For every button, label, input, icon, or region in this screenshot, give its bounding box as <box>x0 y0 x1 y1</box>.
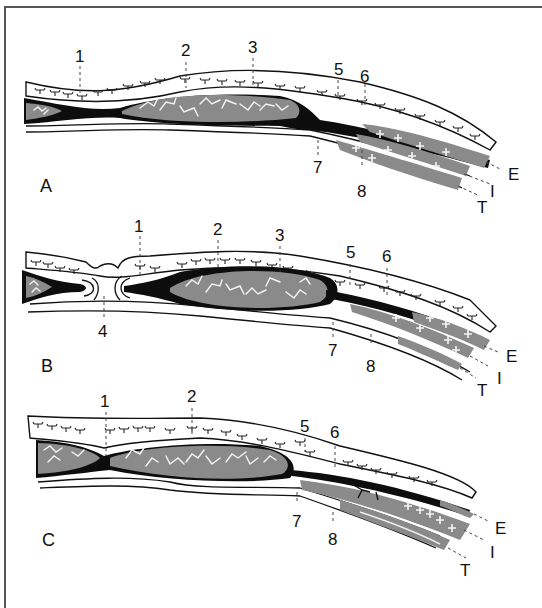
panel-c-marker-6: 6 <box>330 423 339 442</box>
panel-b-marker-3: 3 <box>275 226 284 245</box>
panel-a-layer-E: E <box>508 165 519 184</box>
panel-a-marker-2: 2 <box>181 41 190 60</box>
panel-b-label: B <box>41 356 53 376</box>
diagram-canvas: 1 2 3 5 6 7 8 E I T A <box>0 0 542 608</box>
panel-c-layer-E: E <box>495 519 506 538</box>
panel-a-layer-I: I <box>490 182 495 201</box>
panel-b-marker-5: 5 <box>346 243 355 262</box>
panel-c-marker-2: 2 <box>187 387 196 406</box>
panel-a-label: A <box>40 176 52 196</box>
panel-a-marker-6: 6 <box>360 67 369 86</box>
panel-c-marker-5: 5 <box>300 417 309 436</box>
panel-c-label: C <box>42 530 55 550</box>
panel-b-layer-E: E <box>506 347 517 366</box>
panel-a-marker-7: 7 <box>313 158 322 177</box>
panel-a-body-2 <box>122 95 299 122</box>
panel-c: 1 2 5 6 7 8 E I T C <box>28 387 506 580</box>
panel-b-marker-8: 8 <box>366 357 375 376</box>
panel-a: 1 2 3 5 6 7 8 E I T A <box>24 38 519 217</box>
panel-b-marker-7: 7 <box>328 341 337 360</box>
panel-b: 1 2 3 4 5 6 7 8 E I T B <box>22 217 517 400</box>
panel-c-layer-T: T <box>460 561 470 580</box>
panel-b-layer-I: I <box>497 369 502 388</box>
panel-c-marker-7: 7 <box>292 512 301 531</box>
panel-c-layer-I: I <box>490 543 495 562</box>
panel-b-marker-6: 6 <box>382 247 391 266</box>
panel-a-layer-T: T <box>477 198 487 217</box>
panel-b-marker-4: 4 <box>98 322 107 341</box>
panel-c-marker-8: 8 <box>328 530 337 549</box>
panel-a-marker-3: 3 <box>248 38 257 57</box>
panel-b-marker-2: 2 <box>213 220 222 239</box>
panel-b-marker-1: 1 <box>134 217 143 236</box>
panel-a-marker-5: 5 <box>334 60 343 79</box>
panel-a-marker-1: 1 <box>75 47 84 66</box>
panel-c-marker-1: 1 <box>100 392 109 411</box>
panel-a-marker-8: 8 <box>357 182 366 201</box>
panel-b-layer-T: T <box>477 381 487 400</box>
